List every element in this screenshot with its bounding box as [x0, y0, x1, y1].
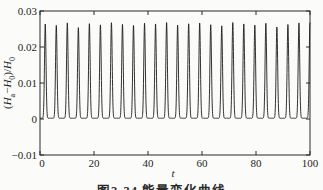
figure-container: (Ha−H0)/H0 0.03 0.02 0.01 0 −0.01 0 20 4… [0, 0, 323, 190]
y-tick-label: 0 [0, 112, 37, 126]
x-tick-label: 60 [182, 156, 222, 170]
x-tick-label: 100 [290, 156, 323, 170]
y-tick-label: 0.02 [0, 40, 37, 54]
x-tick-label: 0 [22, 156, 62, 170]
x-tick-label: 20 [74, 156, 114, 170]
figure-caption-text: 图2-34 能量变化曲线 [97, 185, 226, 190]
y-tick-label: 0.03 [0, 4, 37, 18]
x-tick-label: 40 [128, 156, 168, 170]
figure-caption-clipped: 图2-34 能量变化曲线 [0, 181, 323, 190]
x-tick-label: 80 [236, 156, 276, 170]
x-axis-label: t [163, 167, 183, 179]
y-tick-label: 0.01 [0, 76, 37, 90]
